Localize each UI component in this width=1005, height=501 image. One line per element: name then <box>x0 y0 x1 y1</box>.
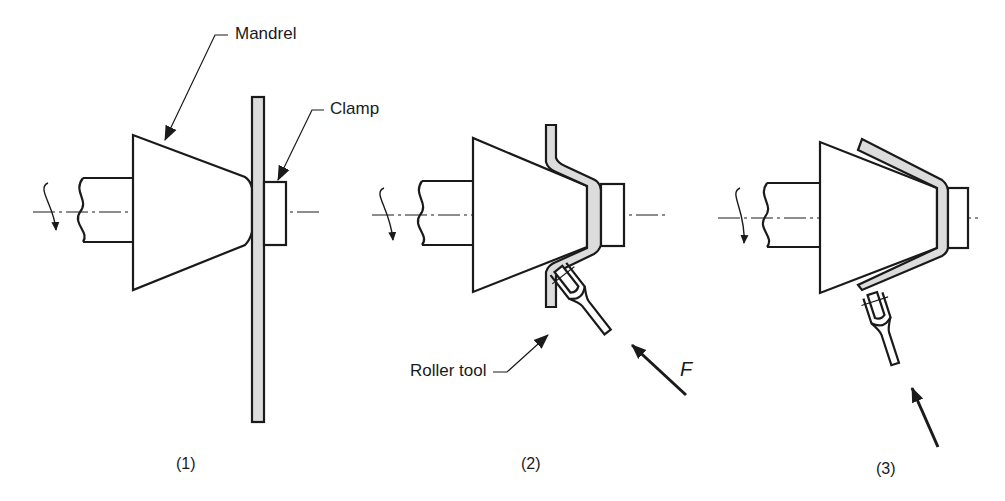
clamp <box>948 188 968 248</box>
step-2-diagram <box>372 125 686 395</box>
clamp-leader <box>278 110 324 180</box>
shaft <box>78 178 133 242</box>
shaft <box>418 181 473 245</box>
workpiece-blank <box>252 97 264 422</box>
roller-tool-label: Roller tool <box>410 361 487 381</box>
rotation-arrow-icon <box>736 188 744 243</box>
mandrel-label: Mandrel <box>235 24 296 44</box>
mandrel <box>133 135 252 290</box>
rotation-arrow-icon <box>44 183 56 230</box>
step-1-caption: (1) <box>176 455 196 473</box>
roller-tool <box>859 289 908 368</box>
clamp <box>601 184 624 246</box>
force-arrow-icon <box>632 345 686 395</box>
step-3-caption: (3) <box>876 460 896 478</box>
clamp <box>264 182 286 245</box>
mandrel <box>820 142 937 293</box>
force-label: F <box>680 358 692 381</box>
shaft <box>763 183 820 247</box>
rotation-arrow-icon <box>380 188 393 240</box>
roller-tool-leader <box>493 335 548 372</box>
step-3-diagram <box>718 139 980 447</box>
mandrel-leader <box>165 35 228 140</box>
spinning-diagram <box>0 0 1005 501</box>
step-1-diagram <box>33 35 324 422</box>
roller-tool <box>547 260 618 340</box>
force-arrow-icon <box>912 388 938 447</box>
step-2-caption: (2) <box>521 455 541 473</box>
clamp-label: Clamp <box>330 99 379 119</box>
